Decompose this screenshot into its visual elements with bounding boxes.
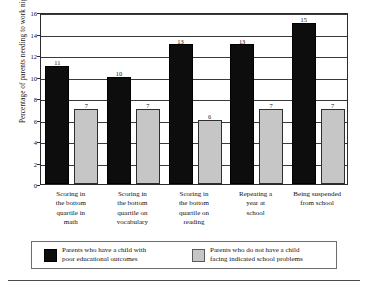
x-category-label-line: from school bbox=[286, 199, 348, 208]
x-category-label: Scoring inthe bottomquartile onreading bbox=[163, 190, 225, 228]
x-category-label-line: school bbox=[225, 209, 287, 218]
bar bbox=[74, 109, 98, 184]
bar-value-label: 13 bbox=[177, 38, 183, 45]
y-tick-label: 16 bbox=[30, 10, 37, 17]
bar-value-label: 7 bbox=[146, 102, 149, 109]
y-tick-label: 14 bbox=[30, 31, 37, 38]
x-category-label-line: Scoring in bbox=[40, 190, 102, 199]
plot-area: 117107136137157 bbox=[40, 13, 348, 185]
bar-value-label: 11 bbox=[54, 59, 60, 66]
legend-item: Parents who do not have a childfacing in… bbox=[192, 246, 303, 265]
bar bbox=[136, 109, 160, 184]
x-category-label-line: the bottom bbox=[163, 199, 225, 208]
bar-value-label: 10 bbox=[116, 70, 122, 77]
x-category-label-line: math bbox=[40, 218, 102, 227]
x-category-label-line: Scoring in bbox=[163, 190, 225, 199]
y-tick-label: 10 bbox=[30, 74, 37, 81]
footer-rule bbox=[8, 280, 360, 281]
bar-value-label: 7 bbox=[269, 102, 272, 109]
bar-value-label: 7 bbox=[85, 102, 88, 109]
legend-item: Parents who have a child withpoor educat… bbox=[44, 246, 146, 265]
bar bbox=[321, 109, 345, 184]
x-category-label: Being suspendedfrom school bbox=[286, 190, 348, 209]
x-category-label-line: vocabulary bbox=[102, 218, 164, 227]
bar-value-label: 13 bbox=[239, 38, 245, 45]
legend-label-line: Parents who have a child with bbox=[62, 246, 146, 255]
legend-swatch bbox=[44, 249, 57, 262]
bar-value-label: 6 bbox=[208, 113, 211, 120]
bar bbox=[259, 109, 283, 184]
x-category-label-line: year at bbox=[225, 199, 287, 208]
bar bbox=[198, 120, 222, 185]
bar-value-label: 7 bbox=[331, 102, 334, 109]
y-axis-ticks: 0246810121416 bbox=[0, 13, 40, 185]
x-category-label-line: quartile on bbox=[102, 209, 164, 218]
legend-label: Parents who have a child withpoor educat… bbox=[62, 246, 146, 265]
bar bbox=[169, 44, 193, 184]
bar-chart-figure: Percentage of parents needing to work ni… bbox=[0, 0, 368, 288]
x-category-label-line: the bottom bbox=[40, 199, 102, 208]
x-category-label-line: quartile on bbox=[163, 209, 225, 218]
x-category-label-line: the bottom bbox=[102, 199, 164, 208]
x-category-label-line: Being suspended bbox=[286, 190, 348, 199]
y-tick-mark bbox=[37, 185, 40, 186]
bar bbox=[45, 66, 69, 184]
x-category-label: Scoring inthe bottomquartile onvocabular… bbox=[102, 190, 164, 228]
bar-series-container: 117107136137157 bbox=[41, 14, 347, 184]
x-axis-category-labels: Scoring inthe bottomquartile inmathScori… bbox=[40, 190, 348, 236]
legend-label-line: Parents who do not have a child bbox=[210, 246, 303, 255]
x-category-label: Scoring inthe bottomquartile inmath bbox=[40, 190, 102, 228]
x-category-label-line: reading bbox=[163, 218, 225, 227]
bar-value-label: 15 bbox=[300, 16, 306, 23]
legend-label-line: facing indicated school problems bbox=[210, 255, 303, 264]
x-category-label-line: Scoring in bbox=[102, 190, 164, 199]
chart-legend: Parents who have a child withpoor educat… bbox=[31, 241, 337, 269]
y-tick-label: 12 bbox=[30, 53, 37, 60]
bar bbox=[292, 23, 316, 184]
x-category-label-line: quartile in bbox=[40, 209, 102, 218]
x-category-label-line: Repeating a bbox=[225, 190, 287, 199]
bar bbox=[230, 44, 254, 184]
x-category-label: Repeating ayear atschool bbox=[225, 190, 287, 218]
legend-label-line: poor educational outcomes bbox=[62, 255, 146, 264]
bar bbox=[107, 77, 131, 185]
legend-label: Parents who do not have a childfacing in… bbox=[210, 246, 303, 265]
legend-swatch bbox=[192, 249, 205, 262]
